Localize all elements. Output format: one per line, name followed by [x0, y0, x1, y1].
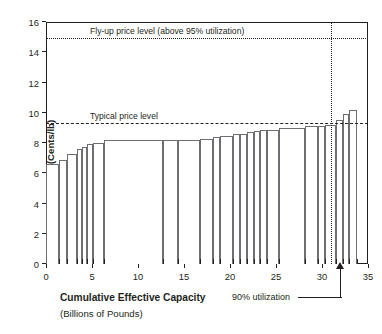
utilization-arrow-icon	[336, 262, 344, 269]
bar-segment	[200, 139, 212, 264]
reference-line-label-flyup: Fly-up price level (above 95% utilizatio…	[90, 26, 244, 36]
x-axis-tick-label: 20	[225, 271, 235, 282]
y-axis-tick	[42, 51, 46, 52]
y-axis-tick-label: 2	[34, 228, 39, 239]
x-axis-tick	[46, 264, 47, 268]
x-axis-minor-tick	[77, 259, 78, 264]
x-axis-tick-label: 15	[179, 271, 189, 282]
y-axis-tick	[42, 21, 46, 22]
x-axis-tick-label: 25	[271, 271, 281, 282]
y-axis-tick	[42, 203, 46, 204]
x-axis-minor-tick	[213, 259, 214, 264]
x-axis-tick	[92, 264, 93, 268]
bar-segment	[233, 134, 240, 264]
bar-segment	[279, 128, 304, 264]
x-axis-tick	[138, 264, 139, 268]
x-axis-subtitle: (Billions of Pounds)	[60, 308, 143, 319]
x-axis-minor-tick	[200, 259, 201, 264]
x-axis-minor-tick	[220, 259, 221, 264]
reference-line-label-typical: Typical price level	[90, 111, 158, 121]
x-axis-minor-tick	[349, 259, 350, 264]
bar-segment	[349, 110, 357, 264]
x-axis-minor-tick	[357, 259, 358, 264]
x-axis-title: Cumulative Effective Capacity	[60, 292, 206, 303]
x-axis-tick-label: 0	[43, 271, 48, 282]
y-axis-tick	[42, 233, 46, 234]
utilization-callout-leader	[298, 297, 342, 298]
x-axis-minor-tick	[67, 259, 68, 264]
y-axis-tick-label: 6	[34, 168, 39, 179]
x-axis-tick	[230, 264, 231, 268]
x-axis-tick	[322, 264, 323, 268]
x-axis-minor-tick	[178, 259, 179, 264]
bar-segment	[104, 140, 162, 264]
y-axis-tick	[42, 82, 46, 83]
y-axis-tick	[42, 142, 46, 143]
reference-line-flyup	[46, 38, 368, 39]
x-axis-tick-label: 35	[363, 271, 373, 282]
x-axis-minor-tick	[260, 259, 261, 264]
y-axis-tick-label: 10	[29, 107, 39, 118]
x-axis-minor-tick	[87, 259, 88, 264]
x-axis-minor-tick	[233, 259, 234, 264]
x-axis-minor-tick	[59, 259, 60, 264]
x-axis-minor-tick	[104, 259, 105, 264]
y-axis-tick-label: 0	[34, 259, 39, 270]
y-axis-tick-label: 12	[29, 77, 39, 88]
x-axis-tick	[184, 264, 185, 268]
x-axis-minor-tick	[254, 259, 255, 264]
bar-segment	[240, 134, 247, 264]
x-axis-minor-tick	[325, 259, 326, 264]
utilization-marker-line	[331, 22, 332, 264]
x-axis-minor-tick	[318, 259, 319, 264]
bar-segment	[220, 136, 232, 264]
x-axis-minor-tick	[163, 259, 164, 264]
cost-curve-chart: Cash Cost (Cents/lb) Fly-up price level …	[0, 0, 382, 334]
x-axis-minor-tick	[240, 259, 241, 264]
x-axis-tick	[368, 264, 369, 268]
utilization-callout-label: 90% utilization	[232, 292, 290, 302]
x-axis-minor-tick	[247, 259, 248, 264]
x-axis-minor-tick	[82, 259, 83, 264]
bar-segment	[67, 154, 77, 264]
reference-line-typical	[46, 123, 368, 124]
bar-segment	[59, 160, 67, 264]
x-axis-minor-tick	[93, 259, 94, 264]
bar-segment	[267, 130, 279, 264]
bar-segment	[213, 137, 221, 264]
y-axis-tick	[42, 112, 46, 113]
y-axis-tick-label: 14	[29, 47, 39, 58]
plot-top-rule	[46, 22, 368, 23]
x-axis-tick-label: 5	[89, 271, 94, 282]
y-axis-tick-label: 4	[34, 198, 39, 209]
x-axis-tick-label: 30	[317, 271, 327, 282]
bar-segment	[46, 164, 59, 264]
x-axis-minor-tick	[279, 259, 280, 264]
bar-segment	[163, 140, 179, 264]
plot-area: Fly-up price level (above 95% utilizatio…	[46, 22, 368, 264]
x-axis-minor-tick	[305, 259, 306, 264]
y-axis-tick	[42, 172, 46, 173]
bar-segment	[305, 126, 319, 264]
x-axis-minor-tick	[267, 259, 268, 264]
bar-segment	[247, 132, 254, 264]
utilization-callout-riser	[340, 268, 341, 298]
y-axis-tick-label: 8	[34, 138, 39, 149]
bar-segment	[93, 143, 105, 264]
x-axis-tick	[276, 264, 277, 268]
bar-segment	[178, 140, 200, 264]
x-axis-tick-label: 10	[133, 271, 143, 282]
y-axis-tick-label: 16	[29, 17, 39, 28]
